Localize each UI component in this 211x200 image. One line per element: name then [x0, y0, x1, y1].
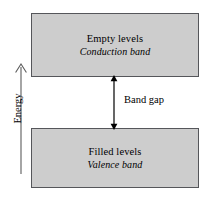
conduction-band-subtitle: Conduction band — [80, 46, 151, 57]
conduction-band-box: Empty levels Conduction band — [31, 13, 199, 77]
band-gap-double-arrow-icon — [106, 75, 122, 130]
band-gap-diagram: Empty levels Conduction band Filled leve… — [0, 0, 211, 200]
energy-axis-label: Energy — [12, 79, 23, 139]
valence-band-subtitle: Valence band — [88, 159, 143, 170]
band-gap-label: Band gap — [124, 94, 164, 105]
valence-band-box: Filled levels Valence band — [31, 128, 199, 188]
valence-band-title: Filled levels — [89, 146, 142, 158]
conduction-band-title: Empty levels — [87, 33, 143, 45]
